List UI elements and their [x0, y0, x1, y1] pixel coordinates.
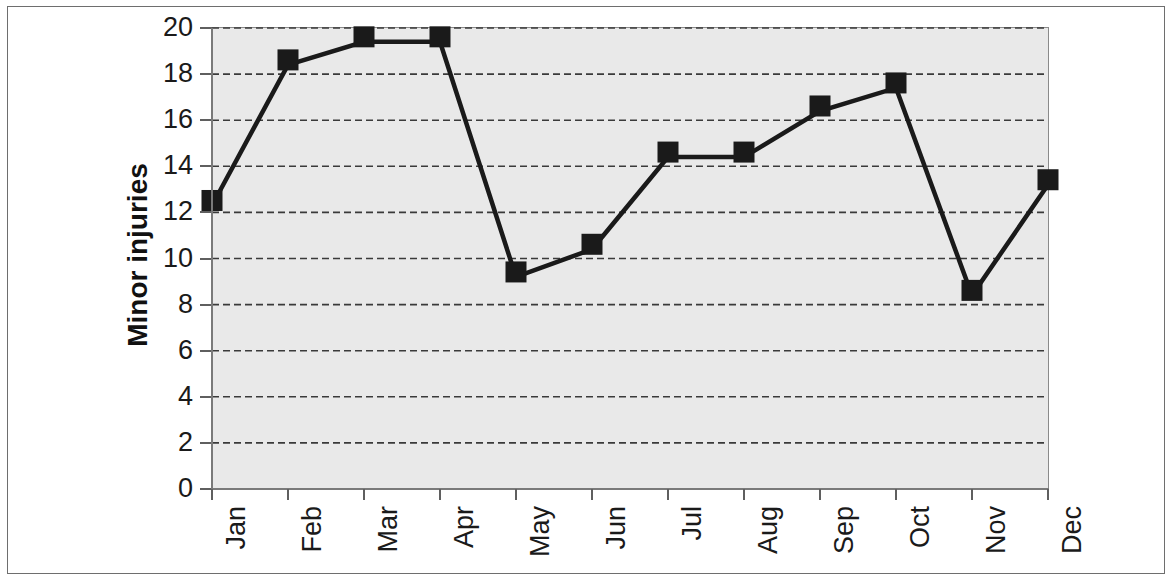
y-axis-line [211, 28, 213, 490]
data-point-marker[interactable] [506, 261, 527, 282]
x-axis-tick [895, 489, 897, 500]
y-axis-tick-label: 14 [143, 152, 193, 179]
gridlines [212, 28, 1048, 443]
chart-figure: Minor injuries 02468101214161820 JanFebM… [0, 0, 1173, 582]
data-point-marker[interactable] [354, 26, 375, 47]
x-axis-tick-label: Aug [755, 506, 782, 554]
x-axis-tick [211, 489, 213, 500]
y-axis-tick-label: 6 [143, 337, 193, 364]
x-axis-tick-label: Oct [907, 506, 934, 548]
y-axis-tick-label: 16 [143, 106, 193, 133]
data-point-marker[interactable] [734, 142, 755, 163]
x-axis-tick [515, 489, 517, 500]
y-axis-tick-label: 20 [143, 14, 193, 41]
x-axis-tick [591, 489, 593, 500]
x-axis-tick-label: May [527, 506, 554, 557]
x-axis-tick [439, 489, 441, 500]
x-axis-tick [819, 489, 821, 500]
y-axis-tick-label: 18 [143, 60, 193, 87]
x-axis-tick-label: Mar [375, 506, 402, 553]
x-axis-tick-label: Apr [451, 506, 478, 548]
y-axis-tick-label: 4 [143, 383, 193, 410]
y-axis-tick-label: 8 [143, 291, 193, 318]
y-axis-tick-label: 2 [143, 429, 193, 456]
data-point-marker[interactable] [658, 142, 679, 163]
x-axis-tick [363, 489, 365, 500]
data-point-marker[interactable] [1038, 169, 1059, 190]
x-axis-tick-label: Sep [831, 506, 858, 554]
plot-svg [212, 28, 1048, 489]
x-axis-tick-label: Jan [223, 506, 250, 550]
y-axis-tick-label: 10 [143, 245, 193, 272]
data-point-marker[interactable] [962, 280, 983, 301]
data-point-marker[interactable] [810, 95, 831, 116]
x-axis-tick [287, 489, 289, 500]
x-axis-tick-label: Jun [603, 506, 630, 550]
x-axis-tick-label: Feb [299, 506, 326, 553]
data-point-marker[interactable] [430, 26, 451, 47]
plot-area [212, 28, 1048, 489]
x-axis-tick-label: Jul [679, 506, 706, 541]
x-axis-tick-label: Dec [1059, 506, 1086, 554]
x-axis-tick [1047, 489, 1049, 500]
x-axis-tick [743, 489, 745, 500]
x-axis-tick [971, 489, 973, 500]
data-point-marker[interactable] [886, 72, 907, 93]
series-line [212, 42, 1048, 296]
x-axis-line [211, 488, 1049, 490]
x-axis-tick [667, 489, 669, 500]
data-series-layer [202, 26, 1059, 301]
x-axis-tick-label: Nov [983, 506, 1010, 554]
data-point-marker[interactable] [582, 234, 603, 255]
y-axis-tick-label: 0 [143, 475, 193, 502]
y-axis-tick-label: 12 [143, 198, 193, 225]
data-point-marker[interactable] [278, 49, 299, 70]
